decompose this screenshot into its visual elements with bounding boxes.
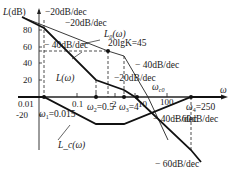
y-axis-arrow-icon: [37, 8, 41, 14]
omega1-label: ω1=0.015: [39, 109, 76, 120]
curve-label-Lc: L_c(ω): [57, 140, 85, 151]
gain-label: 20lgK=45: [108, 38, 147, 48]
y-tick-20: 20: [23, 75, 33, 85]
y-tick-neg20: -20: [16, 110, 28, 120]
slope-label-60-a: − 60dB/dec: [174, 114, 218, 124]
omega2-label: ω2=0.5: [87, 102, 114, 113]
x-axis-label: ω: [220, 85, 227, 95]
bode-diagram: L(dB) ω 80 60 40 20 -20 0.01 0.1 2 10 10…: [0, 0, 231, 187]
slope-label-top-1: −20dB/dec: [45, 7, 87, 17]
y-tick-60: 60: [23, 42, 33, 52]
x-tick-0.1: 0.1: [72, 99, 83, 109]
x-tick-10: 10: [138, 99, 148, 109]
y-tick-40: 40: [23, 58, 33, 68]
omega4-label: ω4=250: [186, 102, 216, 113]
slope-label-40-left: − 40dB/dec: [44, 40, 88, 50]
slope-label-20-mid: −20dB/dec: [114, 73, 156, 83]
x-tick-0.01: 0.01: [18, 99, 34, 109]
slope-label-60-b: − 60dB/dec: [155, 159, 199, 169]
y-axis-label: L(dB): [2, 7, 26, 18]
omega3-label: ω3=4: [119, 102, 139, 113]
omega-c0-label: ωc0: [152, 82, 164, 93]
slope-label-top-2: −20dB/dec: [65, 18, 107, 28]
y-tick-80: 80: [23, 25, 33, 35]
curve-label-L: L(ω): [55, 73, 74, 84]
slope-label-40-right: − 40dB/dec: [135, 60, 179, 70]
curve-label-L0: L₀(ω): [103, 29, 126, 40]
x-tick-100: 100: [160, 97, 174, 107]
